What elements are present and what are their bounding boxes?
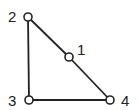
edge-1-4 [69, 57, 110, 100]
edge-2-3 [28, 17, 29, 100]
node-1 [65, 53, 73, 61]
node-3 [25, 96, 33, 104]
edge-2-1 [28, 17, 69, 57]
node-2 [24, 13, 32, 21]
triangle-graph-diagram: 1 2 3 4 [0, 0, 138, 110]
node-label-4: 4 [121, 92, 129, 109]
node-4 [106, 96, 114, 104]
node-label-1: 1 [77, 41, 85, 58]
node-label-2: 2 [8, 8, 16, 25]
node-label-3: 3 [8, 92, 16, 109]
